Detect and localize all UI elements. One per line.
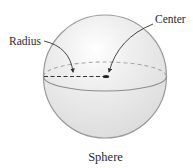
figure-caption: Sphere (88, 150, 123, 164)
radius-label: Radius (9, 35, 41, 47)
center-label: Center (155, 13, 186, 25)
sphere-diagram: Radius Center Sphere (0, 0, 193, 168)
center-point (103, 75, 109, 78)
